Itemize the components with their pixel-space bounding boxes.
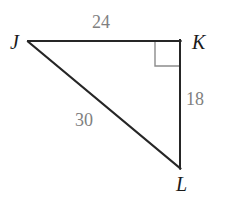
side-length-label-jl: 30 <box>75 111 93 129</box>
side-length-label-jk: 24 <box>92 13 110 31</box>
vertex-label-k: K <box>192 32 205 52</box>
vertex-label-l: L <box>176 174 187 194</box>
side-length-label-kl: 18 <box>186 90 204 108</box>
triangle-figure: J K L 24 18 30 <box>0 0 225 215</box>
vertex-label-j: J <box>10 32 19 52</box>
